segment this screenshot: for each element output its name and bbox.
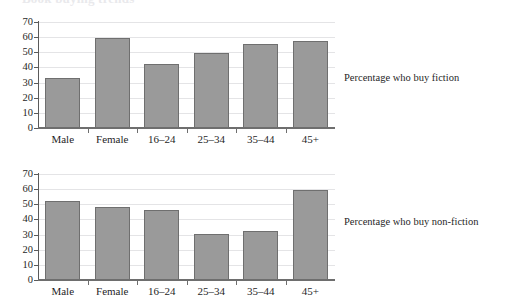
y-tick-label-fiction-0: 0 [28, 123, 33, 134]
y-tick-label-fiction-40: 40 [23, 62, 34, 73]
bar-non-fiction-Male [45, 201, 80, 280]
x-axis-labels-fiction: MaleFemale16–2425–3435–4445+ [38, 132, 335, 148]
y-tick-label-fiction-70: 70 [23, 17, 34, 28]
y-tick-label-fiction-20: 20 [23, 92, 34, 103]
x-axis-label-non-fiction-16–24: 16–24 [137, 284, 187, 298]
y-tick-label-non-fiction-0: 0 [28, 275, 33, 286]
x-axis-label-fiction-35–44: 35–44 [236, 132, 286, 146]
chart-fiction: 010203040506070 MaleFemale16–2425–3435–4… [0, 14, 516, 154]
x-axis-line-non-fiction [38, 279, 335, 280]
x-axis-line-fiction [38, 127, 335, 128]
x-axis-label-non-fiction-35–44: 35–44 [236, 284, 286, 298]
x-axis-label-fiction-45+: 45+ [286, 132, 336, 146]
x-axis-label-fiction-16–24: 16–24 [137, 132, 187, 146]
bar-non-fiction-45+ [293, 190, 328, 280]
cropped-page-heading: Book buying trends [22, 0, 134, 7]
y-tick-mark-non-fiction-0 [34, 280, 38, 281]
x-axis-label-non-fiction-Female: Female [88, 284, 138, 298]
bar-non-fiction-25–34 [194, 234, 229, 280]
y-tick-label-non-fiction-20: 20 [23, 244, 34, 255]
bar-fiction-16–24 [144, 64, 179, 128]
y-tick-label-non-fiction-50: 50 [23, 199, 34, 210]
y-tick-label-fiction-10: 10 [23, 107, 34, 118]
x-axis-label-non-fiction-45+: 45+ [286, 284, 336, 298]
y-tick-label-non-fiction-40: 40 [23, 214, 34, 225]
x-axis-label-fiction-Female: Female [88, 132, 138, 146]
chart-caption-non-fiction: Percentage who buy non-fiction [344, 216, 478, 229]
bar-fiction-Female [95, 38, 130, 128]
plot-area-fiction: 010203040506070 [38, 22, 335, 128]
y-tick-label-non-fiction-30: 30 [23, 229, 34, 240]
y-tick-label-fiction-60: 60 [23, 32, 34, 43]
bar-non-fiction-35–44 [243, 231, 278, 280]
x-axis-label-non-fiction-25–34: 25–34 [187, 284, 237, 298]
bar-series-non-fiction [38, 174, 335, 280]
x-axis-label-non-fiction-Male: Male [38, 284, 88, 298]
y-tick-label-fiction-30: 30 [23, 77, 34, 88]
y-tick-label-non-fiction-60: 60 [23, 184, 34, 195]
y-tick-label-non-fiction-10: 10 [23, 259, 34, 270]
bar-fiction-Male [45, 78, 80, 128]
bar-fiction-35–44 [243, 44, 278, 128]
bar-fiction-25–34 [194, 53, 229, 128]
x-axis-label-fiction-25–34: 25–34 [187, 132, 237, 146]
bar-non-fiction-16–24 [144, 210, 179, 280]
chart-non-fiction: 010203040506070 MaleFemale16–2425–3435–4… [0, 166, 516, 306]
chart-caption-fiction: Percentage who buy fiction [344, 72, 459, 85]
x-axis-labels-non-fiction: MaleFemale16–2425–3435–4445+ [38, 284, 335, 300]
chart-page: Book buying trends 010203040506070 MaleF… [0, 0, 516, 308]
y-tick-label-fiction-50: 50 [23, 47, 34, 58]
plot-area-non-fiction: 010203040506070 [38, 174, 335, 280]
bar-series-fiction [38, 22, 335, 128]
bar-non-fiction-Female [95, 207, 130, 280]
x-axis-label-fiction-Male: Male [38, 132, 88, 146]
y-tick-mark-fiction-0 [34, 128, 38, 129]
bar-fiction-45+ [293, 41, 328, 128]
y-tick-label-non-fiction-70: 70 [23, 169, 34, 180]
